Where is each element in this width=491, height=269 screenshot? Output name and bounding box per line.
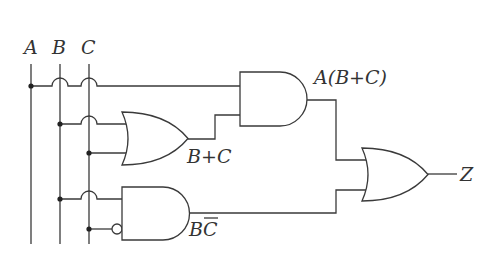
wire-b-to-or1 [60, 116, 127, 124]
or1-output-label: B+C [186, 145, 232, 167]
junction-dot-c1 [86, 150, 91, 155]
and-gate-1 [240, 72, 307, 126]
wire-b-to-and2 [60, 191, 122, 199]
output-label-z: Z [459, 163, 474, 185]
wire-a-to-and1 [31, 78, 240, 86]
junction-dot-b1 [57, 121, 62, 126]
junction-dot-c2 [86, 226, 91, 231]
or-gate-1 [122, 112, 188, 165]
input-label-a: A [22, 36, 38, 58]
and2-output-label-c: C [203, 218, 218, 240]
and-gate-2 [122, 187, 190, 240]
inverter-bubble [112, 224, 122, 234]
logic-circuit-diagram: A B C B+C A(B+C) B C Z [0, 0, 491, 269]
input-label-b: B [51, 36, 66, 58]
and2-output-label-b: B [188, 218, 203, 240]
or-gate-2 [362, 148, 428, 201]
and1-output-label: A(B+C) [312, 66, 387, 88]
input-label-c: C [81, 36, 96, 58]
junction-dot-a [28, 83, 33, 88]
wire-and2-to-or2 [190, 190, 369, 213]
wire-or1-to-and1 [188, 115, 240, 139]
junction-dot-b2 [57, 196, 62, 201]
wire-and1-to-or2 [307, 100, 368, 160]
